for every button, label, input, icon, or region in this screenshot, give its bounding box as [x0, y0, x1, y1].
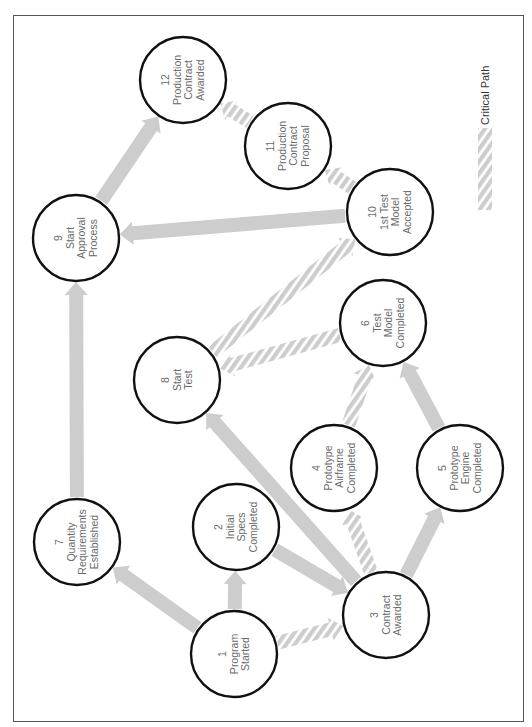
node-label-line: Completed [247, 501, 259, 552]
node-label-line: Production [171, 55, 183, 105]
network-diagram: 1ProgramStarted2InitialSpecsCompleted3Co… [0, 0, 532, 727]
nodes-layer: 1ProgramStarted2InitialSpecsCompleted3Co… [33, 37, 503, 697]
node-label-line: Model [382, 309, 394, 338]
node-label-line: Prototype [322, 445, 334, 490]
node-label-line: Established [88, 515, 100, 569]
node-label-line: Completed [394, 297, 406, 348]
edge-10-to-9-arrow [120, 209, 346, 245]
node-number: 1 [216, 651, 228, 657]
node-9: 9StartApprovalProcess [33, 195, 119, 281]
node-label-line: Test [182, 370, 194, 389]
edge-7-to-9-arrow [65, 282, 88, 497]
node-label-line: Airframe [333, 448, 345, 488]
node-5: 5PrototypeEngineCompleted [417, 425, 503, 511]
node-label-line: Start [64, 227, 76, 249]
node-label-line: Test [371, 313, 383, 332]
node-label-line: 1st Test [378, 194, 390, 230]
node-12: 12ProductionContractAwarded [140, 37, 226, 123]
edge-10-to-11-critical-path-arrow [325, 167, 356, 193]
edge-4-to-6-critical-path-arrow [342, 365, 376, 428]
node-number: 6 [359, 320, 371, 326]
node-label-line: Start [171, 369, 183, 391]
edge-1-to-3-critical-path-arrow [276, 618, 344, 650]
node-2: 2InitialSpecsCompleted [193, 484, 279, 570]
node-number: 8 [159, 377, 171, 383]
node-1: 1ProgramStarted [191, 611, 277, 697]
node-label-line: Completed [345, 442, 357, 493]
node-number: 12 [159, 74, 171, 86]
edge-1-to-7-arrow [113, 566, 202, 634]
node-label-line: Model [389, 198, 401, 227]
node-label-line: Started [239, 637, 251, 671]
node-label-line: Awarded [391, 594, 403, 635]
node-4: 4PrototypeAirframeCompleted [291, 425, 377, 511]
legend-critical-path-swatch [478, 128, 492, 210]
node-label-line: Contract [182, 60, 194, 100]
node-label-line: Quantity [65, 522, 77, 562]
node-number: 9 [52, 235, 64, 241]
node-number: 10 [366, 206, 378, 218]
node-label-line: Requirements [76, 509, 88, 574]
node-label-line: Accepted [401, 190, 413, 234]
edge-9-to-12-arrow [95, 116, 160, 204]
node-11: 11ProductionContractProposal [245, 103, 331, 189]
node-number: 11 [264, 140, 276, 151]
edge-5-to-6-arrow [400, 362, 446, 432]
node-label-line: Approval [75, 217, 87, 258]
edge-3-to-5-arrow [400, 507, 445, 578]
node-number: 5 [436, 465, 448, 471]
node-label-line: Production [276, 121, 288, 171]
node-label-line: Prototype [448, 445, 460, 490]
node-label-line: Program [228, 634, 240, 675]
node-number: 4 [310, 465, 322, 471]
legend: Critical Path [478, 66, 492, 210]
edge-1-to-2-arrow [224, 571, 247, 609]
node-number: 3 [368, 612, 380, 618]
node-label-line: Proposal [299, 125, 311, 166]
node-label-line: Specs [235, 512, 247, 541]
node-label-line: Awarded [194, 59, 206, 100]
node-label-line: Engine [459, 451, 471, 484]
node-6: 6TestModelCompleted [340, 280, 426, 366]
node-label-line: Initial [224, 515, 236, 540]
node-number: 2 [212, 524, 224, 530]
node-number: 7 [53, 539, 65, 545]
node-label-line: Contract [287, 126, 299, 166]
node-label-line: Process [87, 219, 99, 257]
node-8: 8StartTest [134, 337, 220, 423]
node-3: 3ContractAwarded [343, 572, 429, 658]
node-label-line: Completed [471, 442, 483, 493]
node-7: 7QuantityRequirementsEstablished [34, 499, 120, 585]
legend-label: Critical Path [479, 66, 491, 125]
node-10: 101st TestModelAccepted [347, 169, 433, 255]
node-label-line: Contract [380, 595, 392, 635]
edge-11-to-12-critical-path-arrow [220, 101, 253, 128]
